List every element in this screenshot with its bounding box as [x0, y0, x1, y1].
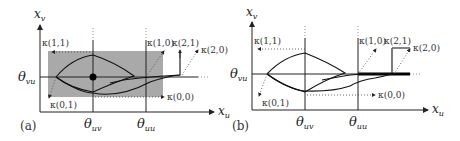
kappa-2-1: κ(2,1): [384, 36, 411, 46]
y-axis-label: xv: [246, 5, 258, 21]
lens-trajectory: [267, 53, 345, 92]
kappa-0-0: κ(0,0): [378, 90, 405, 100]
panel-a-label: (a): [20, 119, 37, 133]
panel-b-label: (b): [232, 119, 249, 133]
theta-vu-label: θvu: [230, 66, 248, 83]
kappa-2-1: κ(2,1): [172, 38, 199, 48]
y-axis-label: xv: [34, 7, 46, 23]
kappa-0-0: κ(0,0): [167, 92, 194, 102]
x-axis-label: xu: [218, 104, 230, 120]
panel-b: xv xu θvu θuv θuu κ(1,1) κ(1,0) κ(2,1) κ…: [230, 5, 444, 133]
theta-uv-label: θuv: [296, 114, 314, 131]
panel-a: xv xu θvu θuv θuu κ(1,1) κ(1,0) κ(2,1) κ…: [18, 7, 230, 133]
kappa-1-1: κ(1,1): [42, 38, 69, 48]
kappa-0-1: κ(0,1): [50, 100, 77, 110]
theta-uu-label: θuu: [349, 114, 367, 131]
theta-vu-label: θvu: [18, 69, 36, 86]
kappa-1-0: κ(1,0): [359, 36, 386, 46]
kappa-1-1: κ(1,1): [254, 36, 281, 46]
kappa-1-0: κ(1,0): [147, 38, 174, 48]
x-axis-label: xu: [432, 102, 444, 118]
kappa-0-1: κ(0,1): [262, 98, 289, 108]
theta-uv-label: θuv: [84, 116, 102, 133]
theta-uu-label: θuu: [137, 116, 155, 133]
kappa-2-0: κ(2,0): [413, 43, 440, 53]
fixed-point: [90, 74, 97, 81]
phase-diagram: xv xu θvu θuv θuu κ(1,1) κ(1,0) κ(2,1) κ…: [0, 0, 460, 141]
kappa-2-0: κ(2,0): [201, 45, 228, 55]
